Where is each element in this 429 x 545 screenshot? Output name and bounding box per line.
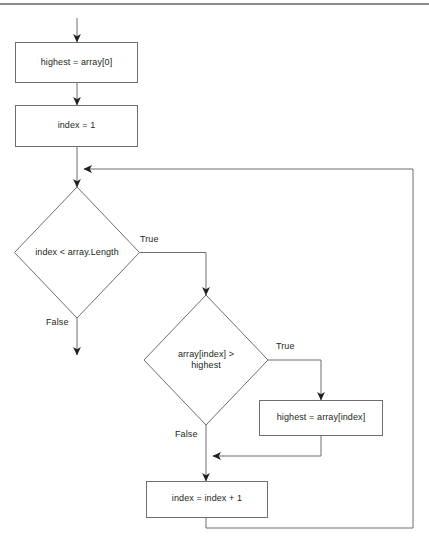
flowchart-graphics (0, 0, 429, 545)
arrow-assign-to-merge (213, 435, 321, 456)
branch-label-compare-true: True (276, 341, 295, 352)
label-assign-highest-current: highest = array[index] (259, 412, 383, 423)
label-increment-index: index = index + 1 (146, 493, 268, 504)
label-assign-highest-first: highest = array[0] (15, 57, 138, 68)
branch-label-loop-false: False (46, 317, 69, 328)
arrow-compare-true-to-assign (268, 360, 321, 400)
branch-label-compare-false: False (175, 429, 198, 440)
label-decision-array-greater-highest-line1: array[index] > (156, 349, 256, 360)
branch-label-loop-true: True (140, 234, 159, 245)
flowchart-canvas: highest = array[0] index = 1 index < arr… (0, 0, 429, 545)
label-decision-index-less-length: index < array.Length (14, 247, 140, 258)
arrow-loop-true-to-compare (140, 253, 207, 296)
label-assign-index-one: index = 1 (15, 120, 138, 131)
label-decision-array-greater-highest-line2: highest (156, 360, 256, 371)
